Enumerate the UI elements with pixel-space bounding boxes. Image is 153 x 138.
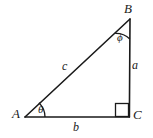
angle-label-phi: ϕ [117, 32, 123, 43]
right-angle-marker-square [116, 104, 129, 117]
vertex-label-c: C [133, 108, 142, 121]
triangle-drawing [0, 0, 153, 138]
side-label-opposite: a [132, 59, 138, 71]
geometry-figure: B A C c a b θ ϕ [0, 0, 153, 138]
side-label-hypotenuse: c [62, 60, 67, 72]
vertex-label-b: B [124, 2, 132, 15]
side-label-adjacent: b [73, 121, 79, 133]
vertex-label-a: A [12, 107, 20, 120]
side-a-vertical-line [129, 19, 130, 117]
angle-label-theta: θ [38, 104, 43, 115]
